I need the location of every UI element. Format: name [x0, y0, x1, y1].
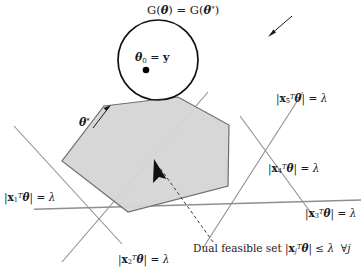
constraint-2-lambda: λ	[163, 253, 170, 265]
level-set-label-theta-star: θ	[203, 3, 211, 17]
constraint-4-equals: =	[297, 162, 312, 174]
theta-zero-y: y	[163, 51, 169, 64]
theta-zero-point	[143, 67, 150, 74]
constraint-5-equals: =	[305, 92, 320, 104]
level-set-label: G(θ) = G(θ*)	[147, 5, 219, 17]
constraint-label-5: |x5Tθ| = λ	[276, 93, 327, 105]
constraint-label-2: |x2Tθ| = λ	[118, 254, 169, 266]
dual-feasible-set-figure: G(θ) = G(θ*) θ0 = y θ* |x5Tθ| = λ |x4Tθ|…	[0, 0, 361, 277]
constraint-5-lambda: λ	[321, 92, 328, 104]
dual-feasible-polygon	[62, 97, 229, 212]
theta-zero-equals: =	[147, 51, 163, 64]
figure-canvas	[0, 0, 361, 277]
theta-star-label: θ*	[79, 117, 90, 128]
constraint-2-theta: θ	[137, 253, 144, 265]
constraint-3-equals: =	[334, 207, 349, 219]
theta-star-superscript: *	[86, 116, 90, 125]
constraint-3-lambda: λ	[350, 207, 357, 219]
dual-caption-leq: ≤	[312, 242, 327, 254]
dual-caption-spacer	[334, 242, 341, 254]
constraint-1-equals: =	[33, 191, 48, 203]
constraint-4-theta: θ	[287, 162, 294, 174]
constraint-5-theta: θ	[295, 92, 302, 104]
constraint-label-1: |x1Tθ| = λ	[4, 192, 55, 204]
constraint-1-lambda: λ	[49, 191, 56, 203]
constraint-1-theta: θ	[23, 191, 30, 203]
g-annotation-arrow	[268, 16, 292, 37]
constraint-label-4: |x4Tθ| = λ	[268, 163, 319, 175]
level-set-label-g1: G(	[147, 3, 161, 17]
theta-zero-label: θ0 = y	[135, 52, 169, 64]
dual-caption-text: Dual feasible set	[193, 242, 285, 254]
level-set-label-mid: ) = G(	[168, 3, 203, 17]
constraint-3-theta: θ	[324, 207, 331, 219]
constraint-2-equals: =	[147, 253, 162, 265]
level-set-label-suffix: )	[215, 3, 220, 17]
constraint-4-lambda: λ	[313, 162, 320, 174]
dual-feasible-set-caption: Dual feasible set |xjTθ| ≤ λ ∀j	[193, 243, 350, 255]
constraint-label-3: |x3Tθ| = λ	[305, 208, 356, 220]
dual-caption-j: j	[347, 242, 350, 254]
